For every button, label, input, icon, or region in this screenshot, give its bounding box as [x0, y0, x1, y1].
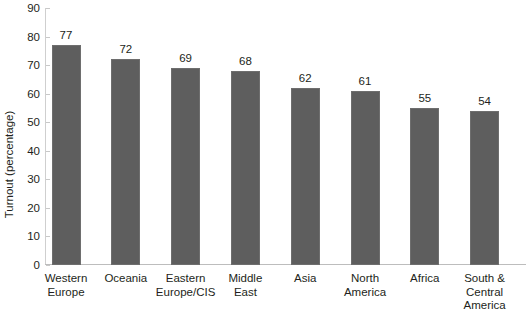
x-axis-category-label: Africa — [395, 272, 455, 286]
y-axis-tick-label: 50 — [0, 116, 40, 128]
bar-value-label: 55 — [400, 92, 450, 105]
bar — [231, 71, 260, 265]
bar-value-label: 68 — [220, 55, 270, 68]
y-axis-tick-label: 90 — [0, 2, 40, 14]
y-axis-line — [45, 8, 46, 265]
bar-value-label: 77 — [41, 29, 91, 42]
bar-value-label: 62 — [280, 72, 330, 85]
x-axis-category-label: NorthAmerica — [335, 272, 395, 299]
y-axis-tick-label: 20 — [0, 202, 40, 214]
bar — [171, 68, 200, 265]
x-axis-category-label: EasternEurope/CIS — [156, 272, 216, 299]
bar-chart: Turnout (percentage) 0102030405060708090… — [0, 0, 530, 322]
x-axis-category-line: Eastern — [156, 272, 216, 286]
x-axis-category-line: Middle East — [215, 272, 275, 299]
x-axis-category-line: North — [335, 272, 395, 286]
y-axis-tick-label: 40 — [0, 145, 40, 157]
x-axis-category-line: Europe — [36, 286, 96, 300]
x-axis-category-line: Western — [36, 272, 96, 286]
bar-value-label: 69 — [161, 52, 211, 65]
bar — [351, 91, 380, 265]
bar-value-label: 72 — [101, 43, 151, 56]
bar-value-label: 61 — [340, 75, 390, 88]
y-axis-tick-label: 0 — [0, 259, 40, 271]
bar — [52, 45, 81, 265]
y-axis-tick-label: 70 — [0, 59, 40, 71]
bar — [410, 108, 439, 265]
x-axis-category-label: South &CentralAmerica — [455, 272, 515, 313]
y-axis-tick-mark — [46, 265, 50, 266]
x-axis-category-line: America — [455, 299, 515, 313]
x-axis-category-label: WesternEurope — [36, 272, 96, 299]
x-axis-category-label: Asia — [275, 272, 335, 286]
x-axis-category-label: Oceania — [96, 272, 156, 286]
bar — [470, 111, 499, 265]
x-axis-category-line: Asia — [275, 272, 335, 286]
x-axis-category-line: Central — [455, 286, 515, 300]
y-axis-title: Turnout (percentage) — [2, 32, 16, 297]
bar — [111, 59, 140, 265]
y-axis-tick-label: 60 — [0, 88, 40, 100]
y-axis-tick-label: 10 — [0, 230, 40, 242]
x-axis-category-label: Middle East — [215, 272, 275, 299]
x-axis-category-line: Europe/CIS — [156, 286, 216, 300]
bar-value-label: 54 — [460, 95, 510, 108]
y-axis-tick-label: 80 — [0, 31, 40, 43]
bar — [291, 88, 320, 265]
x-axis-category-line: South & — [455, 272, 515, 286]
x-axis-category-line: Africa — [395, 272, 455, 286]
y-axis-tick-label: 30 — [0, 173, 40, 185]
x-axis-category-line: America — [335, 286, 395, 300]
x-axis-category-line: Oceania — [96, 272, 156, 286]
